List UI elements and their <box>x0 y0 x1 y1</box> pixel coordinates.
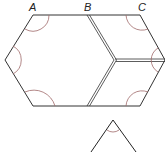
hexagon-outline <box>5 15 165 106</box>
angle-arc-bottom-right <box>126 91 148 106</box>
divider-lines <box>87 15 165 106</box>
angle-arc-triangle <box>107 130 119 132</box>
geometry-diagram: A B C <box>0 0 165 152</box>
triangle <box>91 120 136 152</box>
angle-arc-a <box>25 15 49 31</box>
angle-arc-left <box>13 46 21 74</box>
label-c: C <box>138 1 146 13</box>
label-a: A <box>28 1 36 13</box>
label-b: B <box>84 1 91 13</box>
angle-arcs <box>13 15 158 132</box>
angle-arc-right <box>151 48 158 72</box>
angle-arc-bottom-left <box>25 90 55 106</box>
